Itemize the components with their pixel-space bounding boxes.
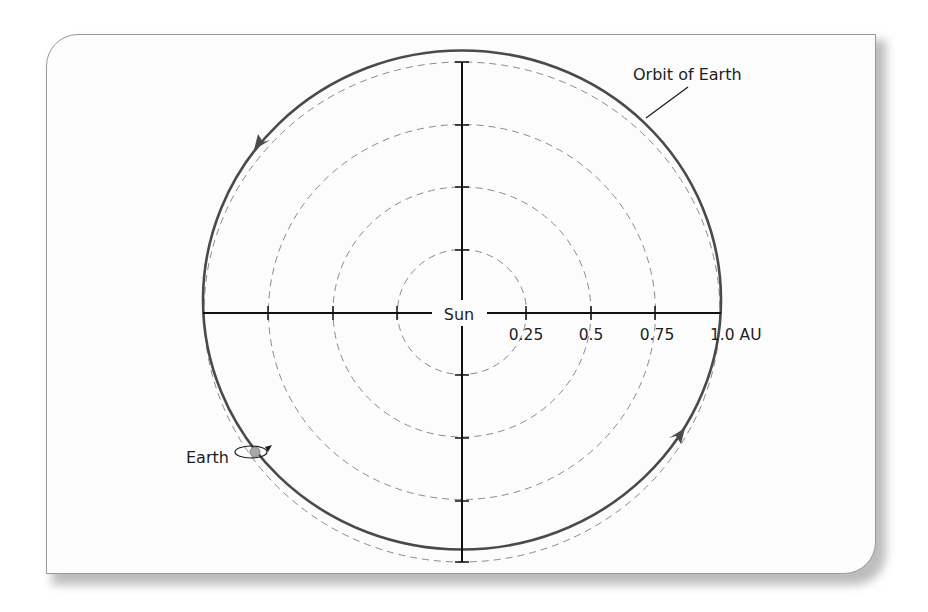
sun-label: Sun	[444, 305, 474, 324]
tick-label-1-0: 1.0 AU	[710, 326, 762, 344]
tick-label-0-5: 0.5	[579, 326, 604, 344]
orbit-diagram: Sun 0.25 0.5 0.75 1.0 AU Orbit of Earth …	[0, 0, 928, 612]
orbit-leader-line	[646, 87, 688, 118]
earth-label: Earth	[186, 448, 229, 467]
earth-icon	[235, 445, 272, 458]
rotation-arrow-icon	[265, 445, 272, 452]
orbit-label: Orbit of Earth	[633, 65, 742, 84]
tick-label-0-75: 0.75	[640, 326, 675, 344]
tick-label-0-25: 0.25	[509, 326, 544, 344]
